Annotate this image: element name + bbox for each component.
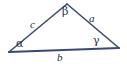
triangle-side-b-line	[9, 48, 119, 52]
side-label-a: a	[89, 13, 95, 24]
angle-label-gamma: γ	[93, 35, 100, 46]
side-label-b: b	[57, 52, 63, 63]
angle-label-beta: β	[62, 6, 68, 17]
triangle-diagram: α β γ c a b	[0, 0, 127, 67]
side-label-c: c	[30, 19, 35, 30]
angle-label-alpha: α	[16, 38, 23, 49]
